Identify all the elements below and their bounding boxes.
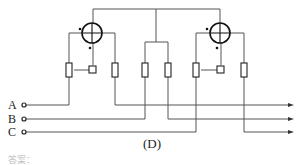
polarity-dot-icon (216, 47, 219, 50)
terminal-label-a: A (8, 99, 17, 111)
terminal-c-icon (22, 130, 26, 134)
arrow-b-icon (288, 117, 294, 121)
resistor-icon (241, 63, 247, 77)
resistor-icon (112, 63, 118, 77)
arrow-c-icon (288, 130, 294, 134)
resistor-icon (165, 63, 171, 77)
arrow-a-icon (288, 103, 294, 107)
diagram-caption: (D) (143, 137, 161, 150)
circuit-diagram: A B C (D) 答案： (0, 0, 301, 165)
terminal-b-icon (22, 117, 26, 121)
resistor-icon (142, 63, 148, 77)
center-branch-wire (145, 9, 168, 63)
footer-text: 答案： (8, 156, 35, 165)
terminal-label-b: B (8, 113, 16, 125)
polarity-dot-icon (206, 28, 209, 31)
current-coil-icon (89, 66, 96, 73)
polarity-dot-icon (79, 28, 82, 31)
current-coil-icon (217, 66, 224, 73)
resistor-icon (66, 63, 72, 77)
terminal-label-c: C (8, 126, 16, 138)
polarity-dot-icon (89, 47, 92, 50)
terminal-a-icon (22, 103, 26, 107)
resistor-icon (193, 63, 199, 77)
